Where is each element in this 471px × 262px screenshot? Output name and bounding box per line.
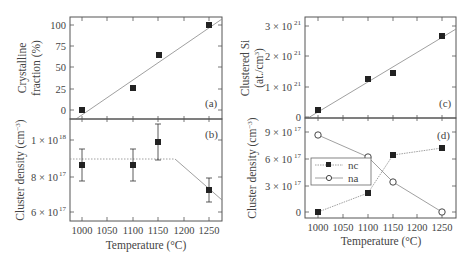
svg-text:1150: 1150 xyxy=(383,222,404,233)
panel-d: 9 × 1017 6 × 1017 3 × 1017 0 Cluster den… xyxy=(246,115,456,248)
svg-text:1250: 1250 xyxy=(432,222,453,233)
svg-text:17: 17 xyxy=(294,125,302,133)
svg-text:17: 17 xyxy=(294,152,302,160)
panel-d-tag: (d) xyxy=(437,129,450,142)
left-xticks: 1000 1050 1100 1150 1200 1250 xyxy=(72,225,220,236)
svg-text:0: 0 xyxy=(61,105,66,116)
svg-text:1000: 1000 xyxy=(72,225,93,236)
figure: 100 75 50 25 0 Crystalline fraction (%) … xyxy=(0,0,471,262)
panel-c-tag: (c) xyxy=(439,97,452,110)
svg-text:3 × 10: 3 × 10 xyxy=(265,21,292,32)
panel-c-fit-line xyxy=(308,29,456,118)
panel-c-yticks: 3 × 1021 2 × 1021 1 × 1021 0 xyxy=(265,19,301,123)
legend: nc na xyxy=(311,158,371,185)
svg-text:0: 0 xyxy=(296,112,301,123)
svg-text:21: 21 xyxy=(294,19,302,27)
legend-na-marker xyxy=(326,175,331,180)
svg-text:2 × 10: 2 × 10 xyxy=(265,51,292,62)
svg-text:8 × 10: 8 × 10 xyxy=(31,172,58,183)
panel-c-ylabel-2: (at./cm3) xyxy=(253,48,266,88)
left-xlabel: Temperature (°C) xyxy=(106,239,187,252)
svg-text:1250: 1250 xyxy=(199,225,220,236)
panel-b-decline-guide xyxy=(175,159,222,200)
svg-text:21: 21 xyxy=(294,49,302,57)
legend-na-label: na xyxy=(348,172,359,184)
svg-text:18: 18 xyxy=(59,133,67,141)
panel-a-yticks: 100 75 50 25 0 xyxy=(50,20,66,116)
panel-a-ylabel-2: fraction (%) xyxy=(30,40,43,96)
panel-c-points xyxy=(315,33,445,113)
svg-text:3 × 10: 3 × 10 xyxy=(265,181,292,192)
panel-b-ylabel: Cluster density (cm−3) xyxy=(14,119,27,221)
svg-text:75: 75 xyxy=(56,41,67,52)
svg-text:17: 17 xyxy=(59,170,67,178)
panel-c: 3 × 1021 2 × 1021 1 × 1021 0 Clustered S… xyxy=(239,17,456,123)
svg-text:1 × 10: 1 × 10 xyxy=(31,135,58,146)
svg-text:25: 25 xyxy=(56,84,67,95)
svg-text:1100: 1100 xyxy=(358,222,379,233)
svg-text:0: 0 xyxy=(296,207,301,218)
panel-c-ylabel-1: Clustered Si xyxy=(239,40,251,97)
panel-b-tag: (b) xyxy=(205,128,218,141)
legend-nc-marker xyxy=(326,162,331,167)
svg-text:1150: 1150 xyxy=(148,225,169,236)
panel-d-yticks: 9 × 1017 6 × 1017 3 × 1017 0 xyxy=(265,125,301,218)
svg-text:6 × 10: 6 × 10 xyxy=(265,154,292,165)
panel-b: 1 × 10 18 8 × 10 17 6 × 10 17 Cluster de… xyxy=(14,116,222,252)
panel-a-fit-line xyxy=(76,19,222,119)
svg-text:1200: 1200 xyxy=(174,225,195,236)
panel-b-errorbars xyxy=(79,124,212,202)
panel-b-points xyxy=(79,139,212,193)
panel-a: 100 75 50 25 0 Crystalline fraction (%) … xyxy=(16,17,222,119)
svg-text:100: 100 xyxy=(50,20,66,31)
panel-b-yticks: 1 × 10 18 8 × 10 17 6 × 10 17 xyxy=(31,133,66,218)
panel-a-ylabel-1: Crystalline xyxy=(16,43,29,93)
right-xlabel: Temperature (°C) xyxy=(341,235,422,248)
svg-text:1200: 1200 xyxy=(407,222,428,233)
svg-text:1000: 1000 xyxy=(308,222,329,233)
svg-text:9 × 10: 9 × 10 xyxy=(265,127,292,138)
svg-text:6 × 10: 6 × 10 xyxy=(31,207,58,218)
svg-text:21: 21 xyxy=(294,80,302,88)
svg-text:1 × 10: 1 × 10 xyxy=(265,82,292,93)
panel-a-tag: (a) xyxy=(205,97,218,110)
legend-nc-label: nc xyxy=(348,159,359,171)
svg-text:17: 17 xyxy=(294,179,302,187)
svg-text:1100: 1100 xyxy=(123,225,144,236)
panel-a-points xyxy=(79,22,212,113)
panel-d-ylabel: Cluster density (cm−3) xyxy=(246,117,259,219)
svg-text:50: 50 xyxy=(56,62,67,73)
svg-text:1050: 1050 xyxy=(333,222,354,233)
right-xticks: 1000 1050 1100 1150 1200 1250 xyxy=(308,222,453,233)
svg-text:17: 17 xyxy=(59,205,67,213)
svg-text:1050: 1050 xyxy=(97,225,118,236)
